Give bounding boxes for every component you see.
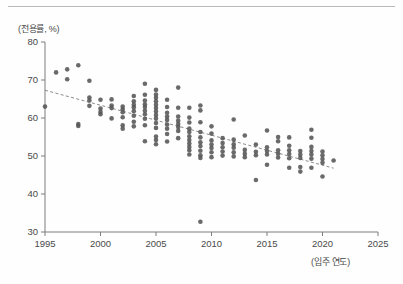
data-point <box>220 153 225 158</box>
data-point <box>309 152 314 157</box>
data-point <box>176 136 181 141</box>
data-point <box>265 162 270 167</box>
data-point <box>209 155 214 160</box>
data-point <box>143 123 148 128</box>
x-tick-label: 2000 <box>90 238 111 249</box>
data-point <box>176 105 181 110</box>
data-point <box>209 124 214 129</box>
data-point <box>176 85 181 90</box>
data-point <box>187 130 192 135</box>
data-point <box>154 116 159 121</box>
y-tick-label: 50 <box>27 150 38 161</box>
x-tick-label: 2005 <box>145 238 166 249</box>
data-point <box>198 156 203 161</box>
data-point <box>165 139 170 144</box>
data-point <box>243 155 248 160</box>
data-point <box>265 128 270 133</box>
data-point <box>143 82 148 87</box>
data-point <box>176 114 181 119</box>
data-point <box>265 152 270 157</box>
data-point <box>109 97 114 102</box>
data-point <box>198 130 203 135</box>
data-point <box>154 142 159 147</box>
data-point <box>287 135 292 140</box>
data-point <box>65 67 70 72</box>
data-point <box>231 145 236 150</box>
data-point <box>298 156 303 161</box>
data-point <box>65 77 70 82</box>
axes <box>41 42 378 236</box>
data-point <box>87 104 92 109</box>
data-point <box>143 139 148 144</box>
data-point <box>120 110 125 115</box>
data-points <box>43 63 336 224</box>
data-point <box>109 116 114 121</box>
data-point <box>165 126 170 131</box>
data-point <box>154 138 159 143</box>
data-point <box>165 118 170 123</box>
data-point <box>287 165 292 170</box>
data-point <box>231 154 236 159</box>
data-point <box>198 144 203 149</box>
data-point <box>132 120 137 125</box>
data-point <box>43 104 48 109</box>
x-tick-label: 2025 <box>367 238 388 249</box>
data-point <box>309 165 314 170</box>
tick-labels: 3040506070801995200020052010201520202025 <box>27 36 388 249</box>
y-tick-label: 40 <box>27 188 38 199</box>
y-tick-label: 30 <box>27 226 38 237</box>
data-point <box>165 105 170 110</box>
data-point <box>143 116 148 121</box>
x-tick-label: 2015 <box>256 238 277 249</box>
data-point <box>165 132 170 137</box>
data-point <box>176 129 181 134</box>
x-tick-label: 2010 <box>201 238 222 249</box>
data-point <box>298 165 303 170</box>
data-point <box>276 155 281 160</box>
data-point <box>320 161 325 166</box>
data-point <box>98 97 103 102</box>
data-point <box>198 120 203 125</box>
data-point <box>87 98 92 103</box>
data-point <box>187 105 192 110</box>
data-point <box>231 137 236 142</box>
data-point <box>165 97 170 102</box>
data-point <box>132 113 137 118</box>
data-point <box>254 153 259 158</box>
data-point <box>109 106 114 111</box>
data-point <box>187 152 192 157</box>
data-point <box>87 78 92 83</box>
data-point <box>309 127 314 132</box>
data-point <box>220 136 225 141</box>
data-point <box>287 152 292 157</box>
x-tick-label: 1995 <box>34 238 55 249</box>
data-point <box>276 139 281 144</box>
data-point <box>254 178 259 183</box>
y-tick-label: 60 <box>27 112 38 123</box>
data-point <box>209 131 214 136</box>
data-point <box>132 124 137 129</box>
data-point <box>287 143 292 148</box>
data-point <box>209 138 214 143</box>
data-point <box>120 115 125 120</box>
x-tick-label: 2020 <box>312 238 333 249</box>
data-point <box>76 124 81 129</box>
data-point <box>198 108 203 113</box>
scatter-plot: 3040506070801995200020052010201520202025 <box>0 0 403 284</box>
y-tick-label: 70 <box>27 74 38 85</box>
data-point <box>309 135 314 140</box>
data-point <box>187 115 192 120</box>
data-point <box>132 94 137 99</box>
data-point <box>143 112 148 117</box>
data-point <box>98 112 103 117</box>
data-point <box>54 70 59 75</box>
data-point <box>187 148 192 153</box>
data-point <box>198 103 203 108</box>
data-point <box>231 150 236 155</box>
data-point <box>220 145 225 150</box>
data-point <box>298 169 303 174</box>
data-point <box>331 158 336 163</box>
data-point <box>220 141 225 146</box>
data-point <box>198 148 203 153</box>
data-point <box>309 156 314 161</box>
